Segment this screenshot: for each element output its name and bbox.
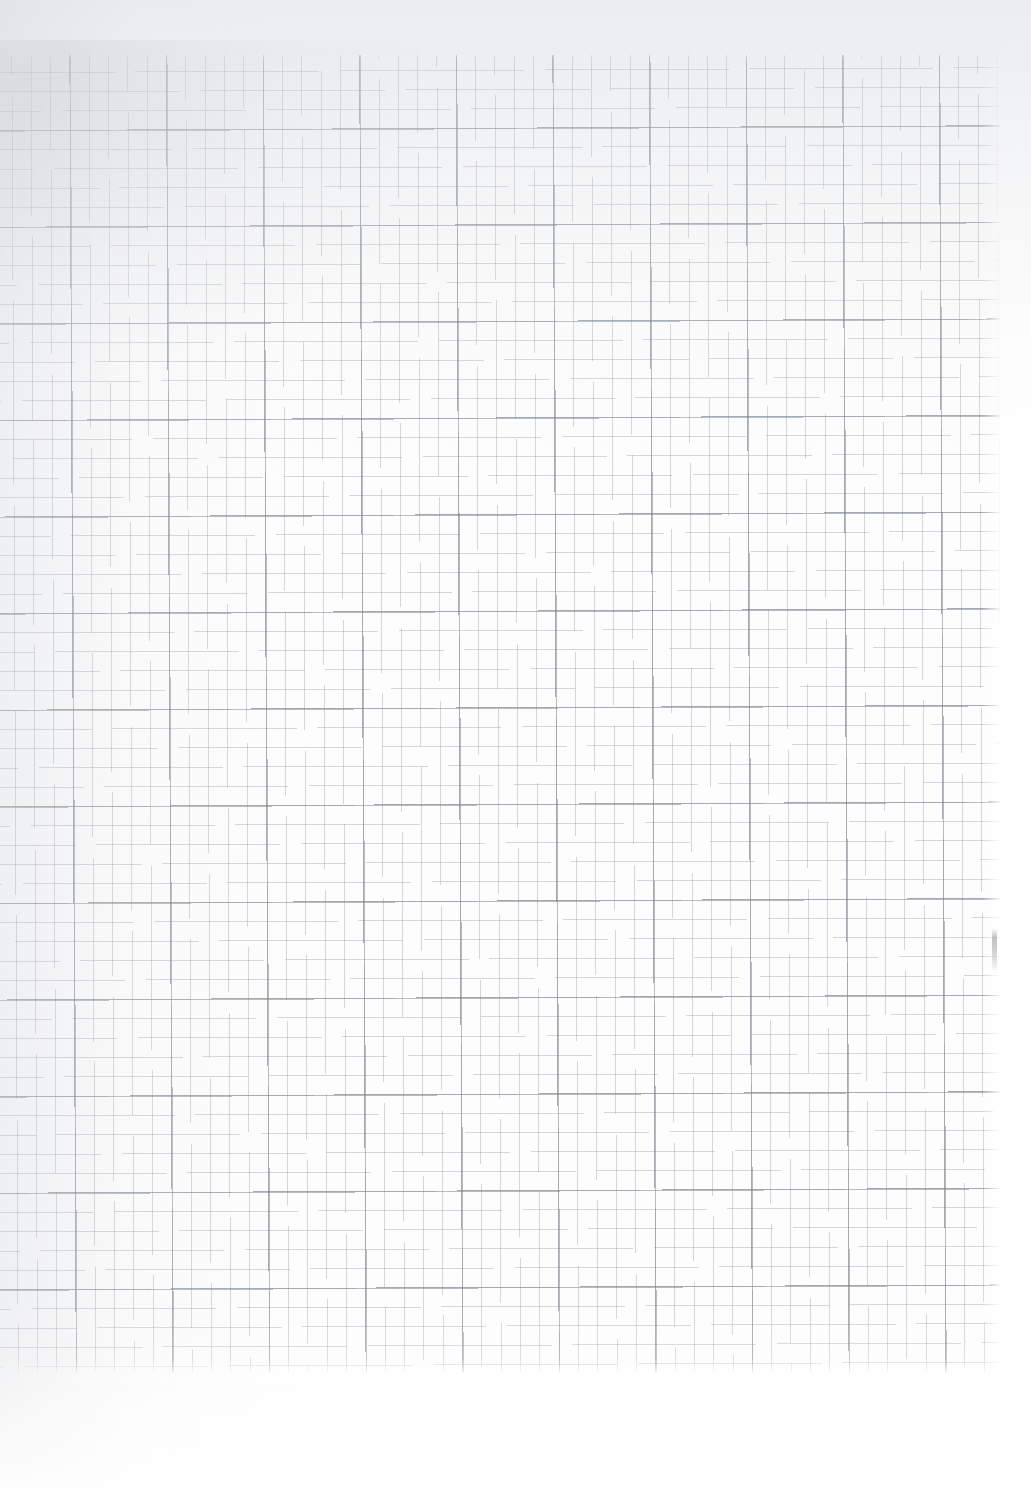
scanned-page <box>0 0 1031 1487</box>
graph-paper-grid <box>0 55 1000 1372</box>
major-gridlines <box>0 55 1000 1372</box>
grid-skew-wrapper <box>0 55 1000 1372</box>
